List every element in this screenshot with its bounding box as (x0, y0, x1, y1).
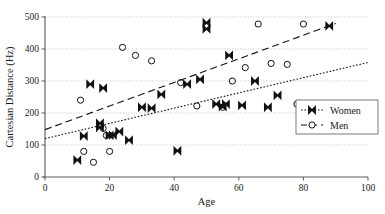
y-tick-label-400: 400 (25, 44, 40, 54)
data-point-women (203, 20, 209, 26)
data-point-men (90, 159, 96, 165)
data-point-men (242, 64, 248, 70)
axis-ticks (42, 17, 369, 181)
data-point-women (226, 52, 232, 58)
data-point-men (268, 60, 274, 66)
x-tick-label-0: 0 (43, 183, 48, 193)
data-point-women (252, 78, 258, 84)
x-tick-label-100: 100 (361, 183, 376, 193)
data-point-women (174, 148, 180, 154)
y-tick-label-0: 0 (34, 172, 39, 182)
data-point-women (116, 128, 122, 134)
data-point-women (74, 157, 80, 163)
data-point-women (87, 81, 93, 87)
data-point-women (81, 133, 87, 139)
data-point-women (100, 85, 106, 91)
y-tick-label-100: 100 (25, 140, 40, 150)
data-point-women (326, 23, 332, 29)
data-point-men (255, 21, 261, 27)
data-point-women (265, 104, 271, 110)
data-point-men (107, 148, 113, 154)
data-point-women (239, 102, 245, 108)
data-point-men (119, 44, 125, 50)
y-tick-label-300: 300 (25, 76, 40, 86)
data-points-women (74, 20, 332, 164)
data-point-men (300, 21, 306, 27)
data-point-women (274, 92, 280, 98)
x-tick-label-80: 80 (299, 183, 309, 193)
chart-legend: WomenMen (296, 100, 378, 134)
data-point-women (148, 105, 154, 111)
x-axis-title: Age (198, 196, 216, 207)
data-point-men (77, 97, 83, 103)
y-axis-title: Cartesian Distance (Hz) (4, 46, 16, 147)
axis-lines (43, 16, 368, 177)
chart-canvas: 0204060801000100200300400500 AgeCartesia… (0, 0, 385, 214)
legend-marker-men (309, 122, 315, 128)
data-point-women (184, 81, 190, 87)
data-point-men (284, 61, 290, 67)
data-point-women (139, 104, 145, 110)
legend-label-men: Men (330, 120, 348, 131)
data-point-men (194, 103, 200, 109)
data-point-men (81, 148, 87, 154)
y-tick-label-200: 200 (25, 108, 40, 118)
x-tick-label-20: 20 (105, 183, 115, 193)
data-point-women (203, 26, 209, 32)
data-point-men (148, 58, 154, 64)
scatter-chart-figure: 0204060801000100200300400500 AgeCartesia… (0, 0, 385, 214)
data-point-men (132, 52, 138, 58)
legend-label-women: Women (330, 105, 361, 116)
x-tick-label-40: 40 (169, 183, 179, 193)
data-point-women (126, 137, 132, 143)
data-points-men (77, 21, 306, 165)
trend-line-men (45, 23, 336, 129)
data-point-women (213, 101, 219, 107)
data-point-women (197, 76, 203, 82)
y-tick-label-500: 500 (25, 12, 40, 22)
x-tick-label-60: 60 (234, 183, 244, 193)
data-point-women (158, 91, 164, 97)
